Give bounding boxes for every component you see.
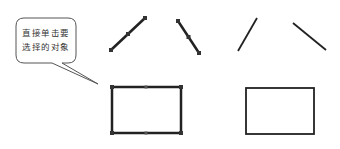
unselected-line-2[interactable] xyxy=(293,23,326,50)
callout-text: 直接单击要 选择的对象 xyxy=(22,26,72,54)
grip-icon[interactable] xyxy=(197,51,201,55)
callout-line-2: 选择的对象 xyxy=(22,40,72,54)
callout-line-1: 直接单击要 xyxy=(22,26,72,40)
grip-icon[interactable] xyxy=(110,85,114,89)
grip-icon[interactable] xyxy=(110,131,114,135)
grip-icon[interactable] xyxy=(143,16,147,20)
selected-rectangle[interactable] xyxy=(110,85,183,135)
grip-icon[interactable] xyxy=(187,35,191,39)
grip-icon[interactable] xyxy=(145,86,148,89)
selected-line-1[interactable] xyxy=(109,16,147,52)
grip-icon[interactable] xyxy=(176,19,180,23)
selected-line-2[interactable] xyxy=(176,19,201,55)
unselected-line-1[interactable] xyxy=(238,18,257,51)
grip-icon[interactable] xyxy=(109,48,113,52)
diagram-canvas xyxy=(0,0,340,149)
grip-icon[interactable] xyxy=(179,131,183,135)
unselected-rectangle[interactable] xyxy=(246,88,314,134)
grip-icon[interactable] xyxy=(145,132,148,135)
grip-icon[interactable] xyxy=(126,32,130,36)
grip-icon[interactable] xyxy=(179,85,183,89)
